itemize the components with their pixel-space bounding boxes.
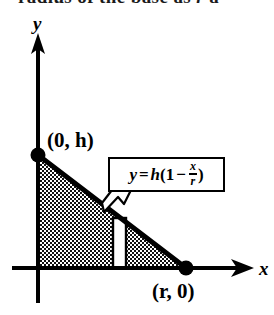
equation-equals: = [139, 165, 149, 185]
equation-lhs: y [129, 165, 137, 185]
point-label-y-intercept: (0, h) [47, 130, 94, 151]
equation-close-paren: ) [198, 165, 204, 185]
equation-coefficient: h [151, 165, 160, 185]
x-axis-label: x [259, 259, 269, 278]
y-axis-label: y [33, 14, 41, 33]
coordinate-figure: y x (0, h) (r, 0) y=h(1−xr) [0, 0, 274, 315]
equation-one: 1 [166, 165, 175, 185]
equation-expression: y=h(1−xr) [129, 161, 203, 188]
equation-callout-box: y=h(1−xr) [108, 157, 225, 192]
point-marker-y-intercept [31, 148, 46, 163]
point-marker-x-intercept [179, 261, 194, 276]
fraction-numerator: x [189, 160, 197, 173]
callout-pointer-tail [102, 190, 131, 212]
representative-rectangle-strip [113, 218, 126, 268]
equation-fraction: xr [189, 160, 197, 187]
equation-minus: − [176, 165, 186, 185]
fraction-denominator: r [190, 175, 197, 188]
figure-page: radius of the base as r a [0, 0, 274, 315]
point-label-x-intercept: (r, 0) [152, 281, 194, 302]
